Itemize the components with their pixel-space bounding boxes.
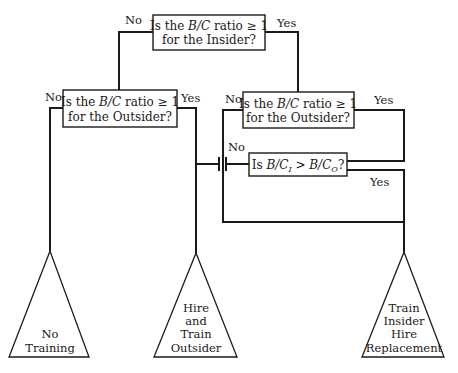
yes-label: Yes xyxy=(373,93,393,107)
decision-tree-diagram: Is the B/C ratio ≥ 1 for the Insider? No… xyxy=(0,0,458,373)
decision-outsider-left: Is the B/C ratio ≥ 1 for the Outsider? N… xyxy=(45,90,200,127)
outsider-right-yes-connector xyxy=(347,110,404,161)
outcome-line: Train xyxy=(180,327,212,341)
no-label: No xyxy=(225,92,242,106)
outcome-line: Insider xyxy=(383,314,425,328)
outsider-left-yes-connector xyxy=(177,108,196,253)
decision-line-1: Is the B/C ratio ≥ 1 xyxy=(239,97,357,111)
outcome-line: Train xyxy=(388,301,420,315)
outcome-hire-train-outsider: Hire and Train Outsider xyxy=(154,253,237,357)
decision-line-1: Is the B/C ratio ≥ 1 xyxy=(61,95,179,109)
outcome-line: and xyxy=(185,314,207,328)
decision-text: Is B/CI > B/CO? xyxy=(252,158,345,174)
outcome-train-insider-hire-replacement: Train Insider Hire Replacement xyxy=(362,252,444,357)
decision-line-2: for the Insider? xyxy=(162,33,256,47)
outcome-line: Outsider xyxy=(171,341,222,355)
insider-no-connector xyxy=(119,32,153,90)
outcome-line: Hire xyxy=(391,327,417,341)
insider-yes-connector xyxy=(265,32,298,92)
outsider-left-no-connector xyxy=(50,108,63,251)
outcome-line: Replacement xyxy=(366,341,443,355)
outcome-no-training: No Training xyxy=(9,251,89,357)
no-label: No xyxy=(125,13,142,27)
connectors xyxy=(50,32,404,253)
outcome-line: No xyxy=(42,327,59,341)
yes-label: Yes xyxy=(180,91,200,105)
no-label: No xyxy=(45,90,62,104)
yes-label: Yes xyxy=(369,175,389,189)
decision-compare: Is B/CI > B/CO? No Yes xyxy=(228,140,389,189)
decision-line-2: for the Outsider? xyxy=(246,111,350,125)
yes-label: Yes xyxy=(276,16,296,30)
no-label: No xyxy=(228,140,245,154)
decision-line-2: for the Outsider? xyxy=(68,110,172,124)
outcome-line: Training xyxy=(25,341,75,355)
decision-line-1: Is the B/C ratio ≥ 1 xyxy=(150,19,268,33)
outcome-line: Hire xyxy=(183,301,209,315)
